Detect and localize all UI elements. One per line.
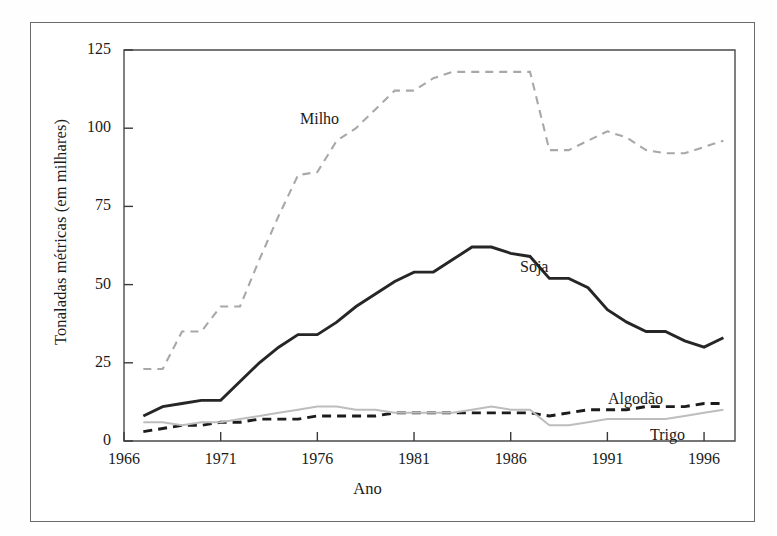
series-label-algodo: Algodão (608, 390, 663, 408)
y-tick-label: 75 (95, 196, 111, 214)
y-tick-label: 25 (95, 353, 111, 371)
y-tick-label: 50 (95, 275, 111, 293)
x-axis-title-text: Ano (353, 479, 381, 499)
x-tick-label: 1991 (567, 450, 647, 468)
y-tick-label: 0 (103, 431, 111, 449)
y-tick-label: 125 (87, 40, 111, 58)
x-tick-label: 1971 (181, 450, 261, 468)
axes (124, 50, 735, 441)
x-tick-label: 1976 (277, 450, 357, 468)
x-tick-label: 1996 (664, 450, 744, 468)
figure-canvas: 0255075100125196619711976198119861991199… (0, 0, 777, 536)
series-label-soja: Soja (520, 258, 548, 276)
x-tick-label: 1981 (374, 450, 454, 468)
y-axis-title: Tonaladas métricas (em milhares) (51, 32, 71, 432)
series-line-milho (143, 72, 723, 369)
x-axis-title: Ano (0, 479, 777, 499)
series-lines (143, 72, 723, 432)
y-tick-label: 100 (87, 118, 111, 136)
plot-frame (124, 50, 735, 441)
series-label-milho: Milho (300, 110, 339, 128)
series-label-trigo: Trigo (650, 426, 685, 444)
x-tick-label: 1986 (471, 450, 551, 468)
x-tick-label: 1966 (84, 450, 164, 468)
